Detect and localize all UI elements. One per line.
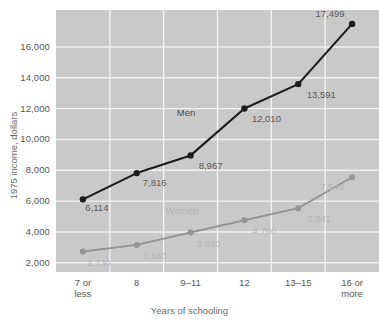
data-point-men xyxy=(349,21,355,27)
data-label-women: 5,541 xyxy=(307,213,331,224)
x-axis-tick-label: 13–15 xyxy=(285,277,311,288)
data-point-women xyxy=(241,217,247,223)
x-axis-tick-label: 8 xyxy=(134,277,139,288)
data-point-men xyxy=(134,170,140,176)
data-label-women: 4,760 xyxy=(253,225,277,236)
data-point-women xyxy=(188,230,194,236)
data-point-women xyxy=(134,242,140,248)
x-axis-tick-label: 7 or less xyxy=(74,277,91,299)
data-point-men xyxy=(295,81,301,87)
data-label-men: 17,499 xyxy=(316,8,345,19)
x-axis-title: Years of schooling xyxy=(0,305,379,316)
y-axis-tick-label: 4,000 xyxy=(0,226,50,237)
data-point-men xyxy=(187,152,193,158)
series-label-men: Men xyxy=(177,107,195,118)
data-label-women: 3,960 xyxy=(197,238,221,249)
series-label-women: Women xyxy=(166,205,199,216)
y-axis-tick-label: 2,000 xyxy=(0,257,50,268)
x-axis-tick-label: 12 xyxy=(239,277,250,288)
y-axis-tick-label: 14,000 xyxy=(0,72,50,83)
x-axis-tick-label: 9–11 xyxy=(180,277,200,288)
line-chart: 2,0004,0006,0008,00010,00012,00014,00016… xyxy=(0,0,379,326)
data-label-men: 8,967 xyxy=(199,160,223,171)
data-label-women: 3,160 xyxy=(143,250,167,261)
data-label-men: 13,591 xyxy=(307,89,336,100)
y-axis-tick-label: 16,000 xyxy=(0,41,50,52)
data-label-women: 7,546 xyxy=(320,181,344,192)
data-label-men: 12,010 xyxy=(252,113,281,124)
y-axis-title: 1975 income, dollars xyxy=(8,91,19,221)
data-point-men xyxy=(241,105,247,111)
data-point-women xyxy=(349,174,355,180)
data-label-women: 2,730 xyxy=(87,257,111,268)
data-point-women xyxy=(295,205,301,211)
x-axis-tick-label: 16 or more xyxy=(341,277,363,299)
data-label-men: 6,114 xyxy=(85,202,108,213)
data-label-men: 7,816 xyxy=(143,177,167,188)
data-point-women xyxy=(80,249,86,255)
